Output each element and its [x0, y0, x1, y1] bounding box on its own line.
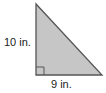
right-triangle [36, 4, 102, 75]
horizontal-leg-label: 9 in. [51, 78, 72, 90]
diagram-canvas: 10 in. 9 in. [0, 0, 106, 93]
vertical-leg-label: 10 in. [4, 36, 31, 48]
